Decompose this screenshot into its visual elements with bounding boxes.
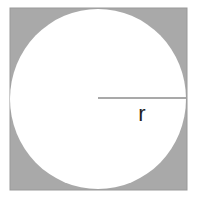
inscribed-circle: [10, 9, 186, 189]
radius-label: r: [138, 101, 145, 126]
circle-in-square-diagram: r: [0, 0, 197, 206]
